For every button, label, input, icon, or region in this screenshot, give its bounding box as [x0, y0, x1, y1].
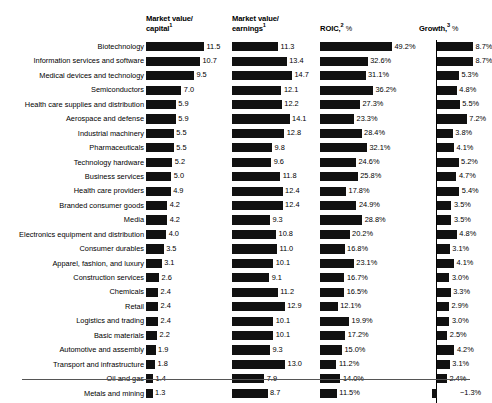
bar — [232, 230, 276, 239]
bar-cell: 7.2% — [437, 114, 491, 123]
bar-value-label: 5.2% — [461, 157, 478, 167]
bar-value-label: 3.8% — [455, 128, 472, 138]
bar-cell: 4.1% — [437, 259, 491, 268]
bar-cell: 2.4 — [146, 302, 230, 311]
bar-value-label: −1.3% — [460, 388, 481, 398]
bar — [320, 143, 367, 152]
bar-value-label: 13.4 — [289, 56, 303, 66]
bar-cell: 4.1% — [437, 143, 491, 152]
category-label: Basic materials — [0, 330, 144, 341]
bar — [320, 273, 344, 282]
bar — [146, 114, 176, 123]
chart-row: Logistics and trading2.410.119.9%3.0% — [0, 314, 492, 328]
chart-row: Media4.29.328.8%3.5% — [0, 213, 492, 227]
bar-value-label: 4.1% — [456, 258, 473, 268]
bar-value-label: 12.9 — [287, 301, 301, 311]
bar-cell: 3.1% — [437, 360, 491, 369]
bar-cell: 5.2 — [146, 158, 230, 167]
bar-cell: 8.7 — [232, 389, 318, 398]
bar-value-label: 11.2 — [280, 287, 294, 297]
bar-cell: 11.8 — [232, 172, 318, 181]
category-label: Health care providers — [0, 185, 144, 196]
category-label: Automotive and assembly — [0, 344, 144, 355]
bar — [232, 302, 285, 311]
category-label: Metals and mining — [0, 388, 144, 399]
bar-value-label: 4.2% — [457, 345, 474, 355]
bar — [146, 172, 171, 181]
bar — [232, 244, 277, 253]
bar-value-label: 11.3 — [281, 42, 295, 52]
bar-cell: 5.5 — [146, 129, 230, 138]
bar-cell: 13.4 — [232, 57, 318, 66]
chart-row: Industrial machinery5.512.828.4%3.8% — [0, 127, 492, 141]
category-label: Semiconductors — [0, 84, 144, 95]
bar-value-label: 8.7% — [476, 56, 492, 66]
column-header-growth: Growth,3 % — [419, 24, 458, 34]
category-label: Media — [0, 214, 144, 225]
bar-cell: 2.4 — [146, 317, 230, 326]
bar — [320, 302, 338, 311]
bar — [320, 100, 360, 109]
bar-value-label: 12.1 — [284, 85, 298, 95]
bar — [232, 129, 284, 138]
bar-value-label: 19.9% — [352, 316, 373, 326]
bar-cell: 36.2% — [320, 86, 416, 95]
bar-value-label: 13.0 — [288, 359, 302, 369]
bar-cell: 9.5 — [146, 71, 230, 80]
bar — [320, 172, 358, 181]
bar — [437, 215, 451, 224]
bar — [146, 345, 156, 354]
bar — [437, 42, 473, 51]
bar-value-label: 16.5% — [347, 287, 368, 297]
column-header-line2: capital — [146, 24, 169, 33]
bar-value-label: 2.4 — [161, 316, 171, 326]
bar — [320, 158, 356, 167]
bar-cell: 5.0 — [146, 172, 230, 181]
bar-value-label: 8.7% — [476, 42, 492, 52]
bar — [320, 331, 345, 340]
bar-cell: 4.2 — [146, 215, 230, 224]
bar — [320, 259, 354, 268]
bar-value-label: 9.6 — [274, 157, 284, 167]
category-label: Biotechnology — [0, 41, 144, 52]
bar-value-label: 5.4% — [462, 186, 479, 196]
chart-row: Medical devices and technology9.514.731.… — [0, 69, 492, 83]
column-header-line1: Market value/ — [232, 14, 279, 23]
bar-value-label: 11.2% — [339, 359, 359, 369]
bar-cell: 9.6 — [232, 158, 318, 167]
bar — [146, 100, 176, 109]
bar-cell: 12.2 — [232, 100, 318, 109]
bar-value-label: 3.1 — [164, 258, 174, 268]
category-label: Construction services — [0, 272, 144, 283]
bar — [232, 57, 287, 66]
bar-value-label: 17.8% — [349, 186, 370, 196]
bar-value-label: 1.9 — [158, 345, 168, 355]
bar — [437, 302, 449, 311]
bar — [146, 360, 155, 369]
bar — [437, 360, 450, 369]
bar-cell: 27.3% — [320, 100, 416, 109]
bar — [232, 201, 283, 210]
bar-value-label: 5.9 — [178, 114, 188, 124]
bar-cell: 5.9 — [146, 100, 230, 109]
bar-value-label: 2.9% — [452, 301, 469, 311]
bar-value-label: 4.1% — [456, 143, 473, 153]
bar — [232, 86, 281, 95]
bar-cell: 24.9% — [320, 201, 416, 210]
bar — [146, 317, 158, 326]
bar-value-label: 3.0% — [452, 273, 469, 283]
bar-value-label: 32.1% — [369, 143, 390, 153]
bar-value-label: 27.3% — [362, 99, 383, 109]
chart-row: Business services5.011.825.8%4.7% — [0, 170, 492, 184]
bar-cell: 4.7% — [437, 172, 491, 181]
bar — [437, 244, 450, 253]
bar-value-label: 12.8 — [287, 128, 301, 138]
bar-value-label: 9.3 — [272, 345, 282, 355]
bar-value-label: 4.8% — [459, 85, 476, 95]
bar — [437, 172, 456, 181]
category-label: Branded consumer goods — [0, 200, 144, 211]
chart-row: Consumer durables3.511.016.8%3.1% — [0, 242, 492, 256]
bar — [146, 158, 172, 167]
bar — [437, 100, 460, 109]
